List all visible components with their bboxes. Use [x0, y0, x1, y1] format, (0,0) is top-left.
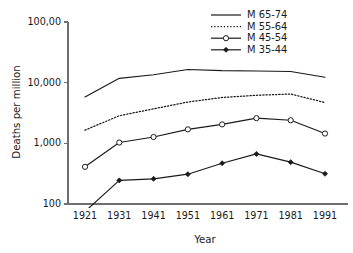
data-point-marker — [288, 118, 293, 123]
data-point-marker — [322, 131, 327, 136]
line-chart: 1001,00010,000100,00 1921193119411951196… — [0, 0, 353, 253]
y-tick-label: 1,000 — [34, 137, 61, 148]
y-tick-label: 100,00 — [27, 16, 61, 27]
x-tick-label: 1981 — [279, 210, 303, 221]
x-tick-label: 1971 — [244, 210, 268, 221]
data-point-marker — [151, 134, 156, 139]
x-tick-label: 1961 — [210, 210, 234, 221]
x-axis-title: Year — [193, 234, 216, 245]
x-tick-label: 1931 — [107, 210, 131, 221]
chart-figure: 1001,00010,000100,00 1921193119411951196… — [0, 0, 353, 253]
legend-marker-open-circle — [223, 36, 228, 41]
data-point-marker — [220, 122, 225, 127]
legend-label: M 35-44 — [247, 44, 287, 55]
x-tick-label: 1951 — [176, 210, 200, 221]
x-tick-label: 1921 — [73, 210, 97, 221]
data-point-marker — [117, 140, 122, 145]
data-point-marker — [254, 116, 259, 121]
y-tick-label: 10,000 — [27, 77, 61, 88]
data-point-marker — [185, 127, 190, 132]
data-point-marker — [82, 164, 87, 169]
legend-label: M 45-54 — [247, 32, 287, 43]
x-tick-label: 1991 — [313, 210, 337, 221]
x-tick-label: 1941 — [141, 210, 165, 221]
legend-label: M 65-74 — [247, 9, 287, 20]
y-tick-label: 100 — [43, 198, 61, 209]
legend-label: M 55-64 — [247, 21, 287, 32]
y-axis-title: Deaths per million — [11, 65, 22, 158]
